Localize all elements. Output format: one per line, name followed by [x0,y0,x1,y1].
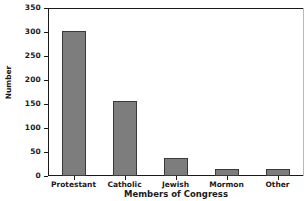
bar [266,169,290,176]
y-tick-label: 200 [25,75,41,84]
y-tick-label: 300 [25,27,41,36]
y-tick-mark [44,80,48,81]
y-tick-mark [44,152,48,153]
x-tick-label: Protestant [51,180,96,189]
y-tick-mark [44,56,48,57]
y-tick-mark [44,128,48,129]
bar [62,31,86,176]
x-tick-label: Jewish [162,180,189,189]
y-tick-label: 250 [25,51,41,60]
bar [113,101,137,176]
axis-spine-top [48,8,304,9]
y-tick-label: 350 [25,3,41,12]
y-tick-label: 100 [25,123,41,132]
y-tick-mark [44,104,48,105]
x-axis-title: Members of Congress [48,189,304,199]
y-tick-label: 150 [25,99,41,108]
bar [164,158,188,176]
y-tick-label: 50 [30,147,41,156]
bar [215,169,239,176]
plot-area [48,8,303,176]
y-tick-mark [44,8,48,9]
x-tick-label: Other [265,180,289,189]
axis-spine-right [303,8,304,176]
y-tick-label: 0 [36,171,41,180]
x-tick-label: Mormon [209,180,244,189]
bar-chart: 050100150200250300350 ProtestantCatholic… [0,0,306,201]
y-axis-title: Number [4,53,13,113]
axis-spine-left [48,8,49,176]
y-tick-mark [44,32,48,33]
y-tick-mark [44,176,48,177]
x-tick-label: Catholic [107,180,141,189]
